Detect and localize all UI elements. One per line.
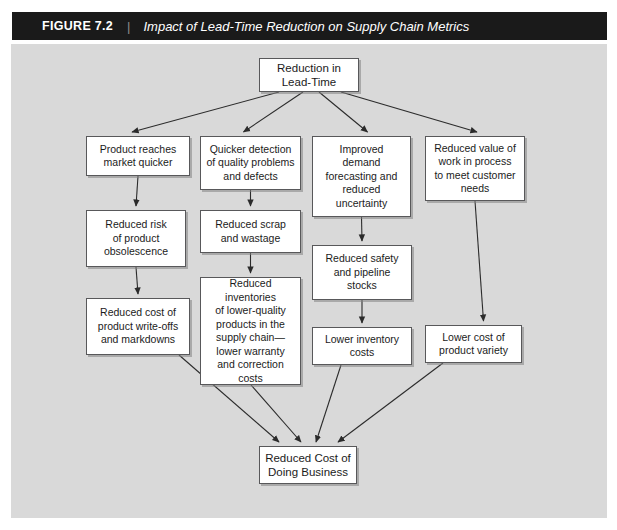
figure-number-label: FIGURE 7.2	[42, 19, 113, 33]
flowchart-node-root: Reduction in Lead-Time	[259, 58, 359, 92]
flowchart-node-risk_obso: Reduced risk of product obsolescence	[86, 210, 186, 267]
flowchart-node-sink: Reduced Cost of Doing Business	[259, 446, 357, 484]
flowchart-node-safety: Reduced safety and pipeline stocks	[312, 245, 412, 300]
figure-container: FIGURE 7.2 | Impact of Lead-Time Reducti…	[0, 0, 617, 530]
flowchart-panel: Reduction in Lead-TimeProduct reaches ma…	[11, 44, 607, 518]
flowchart-edge-inventories-to-sink	[251, 385, 301, 442]
flowchart-node-lower_inv: Lower inventory costs	[312, 327, 412, 365]
flowchart-edge-root-to-quicker_det	[244, 92, 304, 132]
flowchart-edge-root-to-reduced_wip	[341, 92, 477, 132]
flowchart-edge-root-to-prod_market	[132, 92, 279, 132]
flowchart-node-reduced_wip: Reduced value of work in process to meet…	[425, 136, 525, 201]
flowchart-node-writeoffs: Reduced cost of product write-offs and m…	[86, 298, 190, 355]
header-separator: |	[127, 19, 130, 34]
flowchart-edge-lower_inv-to-sink	[316, 365, 341, 442]
flowchart-node-prod_market: Product reaches market quicker	[86, 136, 190, 176]
flowchart-node-lower_var: Lower cost of product variety	[425, 325, 522, 363]
flowchart-edge-improved_fc-to-safety	[362, 217, 363, 241]
flowchart-node-improved_fc: Improved demand forecasting and reduced …	[312, 136, 411, 217]
flowchart-node-inventories: Reduced inventories of lower-quality pro…	[200, 277, 301, 385]
flowchart-node-quicker_det: Quicker detection of quality problems an…	[200, 136, 301, 190]
flowchart-edge-prod_market-to-risk_obso	[136, 176, 138, 206]
figure-header-bar: FIGURE 7.2 | Impact of Lead-Time Reducti…	[12, 12, 607, 40]
flowchart-edge-lower_var-to-sink	[338, 363, 443, 442]
flowchart-node-scrap: Reduced scrap and wastage	[200, 210, 301, 253]
figure-title-label: Impact of Lead-Time Reduction on Supply …	[143, 19, 469, 34]
flowchart-edge-reduced_wip-to-lower_var	[475, 201, 484, 321]
flowchart-edge-risk_obso-to-writeoffs	[136, 267, 138, 294]
